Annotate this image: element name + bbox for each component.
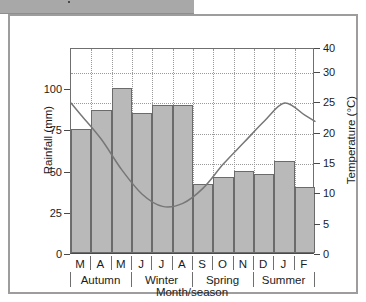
temperature-axis-title: Temperature (°C) [345, 75, 357, 205]
temperature-line [71, 49, 315, 255]
month-separator [253, 256, 254, 270]
month-label: J [151, 258, 171, 270]
temperature-tick-mark [314, 224, 320, 225]
season-label: Autumn [70, 274, 131, 286]
month-separator [131, 256, 132, 270]
temperature-tick-mark [314, 163, 320, 164]
temperature-tick-mark [314, 193, 320, 194]
rainfall-tick-label: 0 [28, 249, 62, 259]
month-label: M [70, 258, 90, 270]
temperature-tick-label: 10 [323, 188, 345, 198]
rainfall-tick-mark [64, 172, 70, 173]
month-label: J [131, 258, 151, 270]
season-label: Winter [131, 274, 192, 286]
month-label: A [172, 258, 192, 270]
season-separator [314, 272, 315, 287]
rainfall-axis-title: Rainfall (mm) [42, 80, 54, 200]
temperature-tick-label: 40 [323, 43, 345, 53]
temperature-tick-label: 30 [323, 67, 345, 77]
month-separator [111, 256, 112, 270]
month-separator [151, 256, 152, 270]
month-label: F [294, 258, 314, 270]
season-separator [192, 272, 193, 287]
temperature-tick-mark [314, 102, 320, 103]
temperature-tick-label: 20 [323, 128, 345, 138]
plot-area [70, 48, 314, 254]
month-separator [273, 256, 274, 270]
season-separator [131, 272, 132, 287]
temperature-tick-mark [314, 48, 320, 49]
month-label: O [212, 258, 232, 270]
temperature-tick-label: 15 [323, 158, 345, 168]
month-label: J [273, 258, 293, 270]
rainfall-tick-mark [64, 89, 70, 90]
season-separator [70, 272, 71, 287]
month-label: S [192, 258, 212, 270]
season-label: Summer [253, 274, 314, 286]
season-separator [253, 272, 254, 287]
temperature-tick-label: 5 [323, 219, 345, 229]
month-separator [212, 256, 213, 270]
month-separator [233, 256, 234, 270]
month-separator [294, 256, 295, 270]
season-label: Spring [192, 274, 253, 286]
rainfall-tick-label: 25 [28, 208, 62, 218]
month-separator [192, 256, 193, 270]
month-label: A [90, 258, 110, 270]
header-strip [0, 0, 194, 14]
temperature-tick-mark [314, 133, 320, 134]
chart-figure: 0255075100 Rainfall (mm) 05101520253040 … [10, 16, 356, 292]
temperature-tick-mark [314, 254, 320, 255]
month-label: D [253, 258, 273, 270]
header-dot-icon [68, 1, 70, 3]
rainfall-tick-mark [64, 254, 70, 255]
rainfall-tick-mark [64, 213, 70, 214]
month-label: N [233, 258, 253, 270]
month-separator [90, 256, 91, 270]
temperature-tick-mark [314, 72, 320, 73]
rainfall-tick-mark [64, 130, 70, 131]
xaxis-title: Month/season [70, 286, 314, 298]
chart-card: 0255075100 Rainfall (mm) 05101520253040 … [8, 14, 358, 294]
month-label: M [111, 258, 131, 270]
temperature-tick-label: 0 [323, 249, 345, 259]
month-separator [172, 256, 173, 270]
temperature-tick-label: 25 [323, 97, 345, 107]
